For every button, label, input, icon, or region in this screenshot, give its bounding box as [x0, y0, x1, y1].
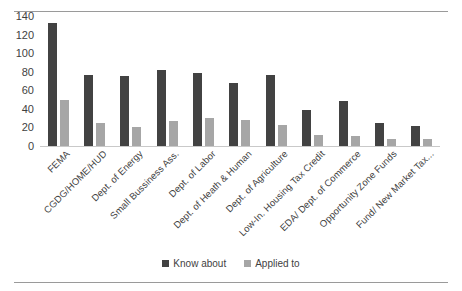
x-axis-labels: FEMACGDG/HOME/HUDDept. of EnergySmall Bu…	[40, 148, 440, 248]
bar-know-about	[375, 123, 384, 146]
x-axis-tick-label: Dept. of Agriculture	[224, 148, 290, 214]
y-axis: 020406080100120140	[8, 16, 36, 146]
bar-know-about	[302, 110, 311, 146]
x-axis-tick-label: CGDG/HOME/HUD	[41, 148, 108, 215]
bar-applied-to	[60, 100, 69, 146]
bar-applied-to	[241, 120, 250, 146]
bar-applied-to	[169, 121, 178, 146]
bar-group	[40, 16, 76, 146]
bar-group	[258, 16, 294, 146]
x-axis-line	[40, 146, 440, 147]
bar-group	[76, 16, 112, 146]
bar-group	[404, 16, 440, 146]
legend-swatch-icon	[244, 260, 251, 267]
y-axis-tick-label: 20	[22, 122, 34, 133]
bar-know-about	[193, 73, 202, 146]
bar-chart-figure: 020406080100120140 FEMACGDG/HOME/HUDDept…	[0, 0, 462, 291]
bar-know-about	[266, 75, 275, 146]
legend-item: Applied to	[244, 258, 299, 269]
bar-applied-to	[132, 127, 141, 146]
bar-applied-to	[351, 136, 360, 146]
legend-label: Know about	[173, 258, 226, 269]
bar-know-about	[84, 75, 93, 146]
bar-group	[149, 16, 185, 146]
bar-group	[331, 16, 367, 146]
bar-applied-to	[387, 139, 396, 146]
bar-groups	[40, 16, 440, 146]
bar-applied-to	[96, 123, 105, 146]
bar-know-about	[229, 83, 238, 146]
top-divider-rule	[14, 11, 448, 12]
y-axis-tick-label: 0	[28, 141, 34, 152]
y-axis-tick-label: 140	[16, 11, 34, 22]
x-axis-tick-label: Fund/ New Market Tax...	[354, 148, 436, 230]
y-axis-tick-label: 120	[16, 29, 34, 40]
y-axis-tick-label: 40	[22, 103, 34, 114]
legend-swatch-icon	[162, 260, 169, 267]
bar-applied-to	[314, 135, 323, 146]
bar-know-about	[120, 76, 129, 146]
x-axis-tick-label: FEMA	[45, 148, 72, 175]
plot-area	[40, 16, 440, 146]
bar-applied-to	[205, 118, 214, 146]
y-axis-tick-label: 60	[22, 85, 34, 96]
bottom-divider-rule	[14, 282, 448, 283]
legend-label: Applied to	[255, 258, 299, 269]
legend-item: Know about	[162, 258, 226, 269]
chart-legend: Know aboutApplied to	[0, 258, 462, 269]
bar-applied-to	[423, 139, 432, 146]
bar-group	[113, 16, 149, 146]
bar-group	[222, 16, 258, 146]
y-axis-tick-label: 100	[16, 48, 34, 59]
bar-know-about	[411, 126, 420, 146]
bar-applied-to	[278, 125, 287, 146]
bar-know-about	[339, 101, 348, 146]
bar-know-about	[157, 70, 166, 146]
y-axis-tick-label: 80	[22, 66, 34, 77]
bar-group	[185, 16, 221, 146]
bar-group	[367, 16, 403, 146]
bar-know-about	[48, 23, 57, 147]
x-axis-tick-label: Small Bussiness Ass.	[108, 148, 181, 221]
bar-group	[295, 16, 331, 146]
